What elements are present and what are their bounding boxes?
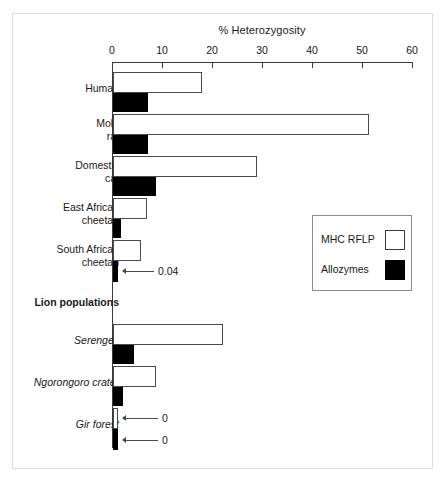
callout-line-gir-forest-mhc-rflp xyxy=(126,418,158,419)
legend-label-allozymes: Allozymes xyxy=(321,263,369,275)
bar-mole-rat-allozymes xyxy=(113,135,148,154)
bar-gir-forest-allozymes xyxy=(113,429,118,450)
row-label-domestic-cat-line1: Domestic xyxy=(0,159,119,172)
bar-east-african-cheetah-mhc-rflp xyxy=(113,198,147,219)
bar-serengeti-mhc-rflp xyxy=(113,324,223,345)
callout-value-gir-forest-allozymes: 0 xyxy=(162,434,168,446)
x-tick-mark-40 xyxy=(312,62,313,68)
row-label-east-african-cheetah-line1: East African xyxy=(0,201,119,214)
chart-row-domestic-cat: Domestic cat xyxy=(0,154,447,196)
plot-area: % Heterozygosity 0 10 20 30 40 50 60 Hum… xyxy=(0,0,447,484)
row-label-mole-rat-line2: rat xyxy=(0,130,119,143)
x-tick-label-0: 0 xyxy=(97,44,127,56)
x-tick-label-10: 10 xyxy=(147,44,177,56)
legend-label-mhc-rflp: MHC RFLP xyxy=(321,233,375,245)
bar-east-african-cheetah-allozymes xyxy=(113,219,121,238)
x-tick-mark-0 xyxy=(112,62,113,68)
chart-row-gir-forest: Gir forest 0 0 xyxy=(0,406,447,450)
row-label-gir-forest: Gir forest xyxy=(0,418,119,431)
row-label-mole-rat-line1: Mole xyxy=(0,117,119,130)
bar-south-african-cheetah-mhc-rflp xyxy=(113,240,141,261)
x-tick-label-30: 30 xyxy=(247,44,277,56)
bar-ngorongoro-crater-allozymes xyxy=(113,387,123,406)
callout-value-south-african-cheetah: 0.04 xyxy=(158,265,178,277)
callout-value-gir-forest-mhc-rflp: 0 xyxy=(162,412,168,424)
chart-row-lion-populations-heading: Lion populations xyxy=(0,296,447,314)
bar-serengeti-allozymes xyxy=(113,345,134,364)
row-label-serengeti: Serengeti xyxy=(0,334,119,347)
bar-gir-forest-mhc-rflp xyxy=(113,408,118,429)
bar-ngorongoro-crater-mhc-rflp xyxy=(113,366,156,387)
callout-line-gir-forest-allozymes xyxy=(126,440,158,441)
x-tick-label-50: 50 xyxy=(347,44,377,56)
legend-item-allozymes: Allozymes xyxy=(321,259,405,281)
x-axis-tick-labels: 0 10 20 30 40 50 60 xyxy=(0,44,447,58)
heterozygosity-bar-chart: % Heterozygosity 0 10 20 30 40 50 60 Hum… xyxy=(0,0,447,484)
bar-domestic-cat-mhc-rflp xyxy=(113,156,257,177)
legend-item-mhc-rflp: MHC RFLP xyxy=(321,229,405,251)
x-axis-title: % Heterozygosity xyxy=(112,24,412,36)
row-label-south-african-cheetah-line1: South African xyxy=(0,243,119,256)
x-tick-mark-60 xyxy=(412,62,413,68)
callout-line-south-african-cheetah xyxy=(126,271,154,272)
chart-legend: MHC RFLP Allozymes xyxy=(312,215,412,291)
x-tick-label-60: 60 xyxy=(397,44,427,56)
x-tick-mark-20 xyxy=(212,62,213,68)
legend-swatch-mhc-rflp xyxy=(385,230,405,250)
bar-south-african-cheetah-allozymes xyxy=(113,261,118,282)
legend-swatch-allozymes xyxy=(385,260,405,280)
chart-row-serengeti: Serengeti xyxy=(0,322,447,364)
bar-domestic-cat-allozymes xyxy=(113,177,156,196)
row-label-south-african-cheetah-line2: cheetah xyxy=(0,256,119,269)
bar-mole-rat-mhc-rflp xyxy=(113,114,369,135)
x-tick-label-20: 20 xyxy=(197,44,227,56)
bar-human-mhc-rflp xyxy=(113,72,202,93)
chart-row-ngorongoro-crater: Ngorongoro crater xyxy=(0,364,447,406)
x-tick-mark-50 xyxy=(362,62,363,68)
row-label-ngorongoro-crater: Ngorongoro crater xyxy=(0,376,119,389)
chart-row-human: Human xyxy=(0,70,447,112)
x-tick-mark-10 xyxy=(162,62,163,68)
x-tick-mark-30 xyxy=(262,62,263,68)
row-label-human: Human xyxy=(0,82,119,95)
bar-human-allozymes xyxy=(113,93,148,112)
group-heading-lion-populations: Lion populations xyxy=(0,296,119,309)
chart-row-mole-rat: Mole rat xyxy=(0,112,447,154)
row-label-east-african-cheetah-line2: cheetah xyxy=(0,214,119,227)
row-label-domestic-cat-line2: cat xyxy=(0,172,119,185)
x-tick-label-40: 40 xyxy=(297,44,327,56)
